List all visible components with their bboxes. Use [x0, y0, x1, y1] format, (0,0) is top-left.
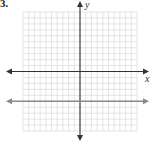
x-axis-left-arrow-icon: [6, 69, 12, 75]
y-axis-label: y: [84, 0, 90, 10]
series: [6, 98, 149, 104]
series-right-arrow-icon: [143, 98, 149, 104]
y-axis-down-arrow-icon: [77, 135, 83, 141]
series-left-arrow-icon: [6, 98, 12, 104]
y-axis-up-arrow-icon: [77, 1, 83, 7]
coordinate-plane: x y: [0, 0, 154, 142]
axes: [6, 1, 149, 141]
x-axis-label: x: [144, 73, 150, 84]
